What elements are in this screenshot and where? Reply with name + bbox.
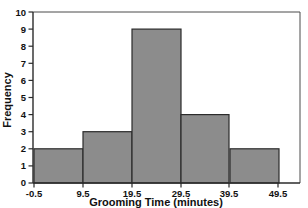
- y-tick-label-10: 10: [15, 7, 26, 18]
- x-tick-label-5: 49.5: [269, 188, 288, 199]
- y-tick-label-5: 5: [21, 92, 27, 103]
- bar-bin-5: [230, 149, 279, 183]
- bar-bin-2: [83, 132, 132, 183]
- y-tick-label-2: 2: [21, 143, 26, 154]
- y-tick-label-3: 3: [21, 126, 26, 137]
- y-tick-label-6: 6: [21, 75, 26, 86]
- y-tick-label-8: 8: [21, 41, 26, 52]
- bar-bin-1: [34, 149, 83, 183]
- bar-bin-4: [181, 115, 229, 183]
- x-tick-label-0: -0.5: [26, 188, 43, 199]
- y-tick-label-1: 1: [21, 160, 27, 171]
- y-tick-label-9: 9: [21, 24, 26, 35]
- y-tick-label-7: 7: [21, 58, 26, 69]
- bar-bin-3: [132, 29, 181, 183]
- histogram-chart: 0 1 2 3 4 5 6 7 8 9 10 -0.5 9.5 19.5 29.…: [0, 0, 308, 208]
- y-axis-title: Frequency: [1, 71, 13, 128]
- y-tick-label-4: 4: [21, 109, 27, 120]
- x-axis-title: Grooming Time (minutes): [89, 196, 223, 208]
- chart-canvas: 0 1 2 3 4 5 6 7 8 9 10 -0.5 9.5 19.5 29.…: [0, 0, 308, 208]
- y-tick-labels-group: 0 1 2 3 4 5 6 7 8 9 10: [15, 7, 26, 189]
